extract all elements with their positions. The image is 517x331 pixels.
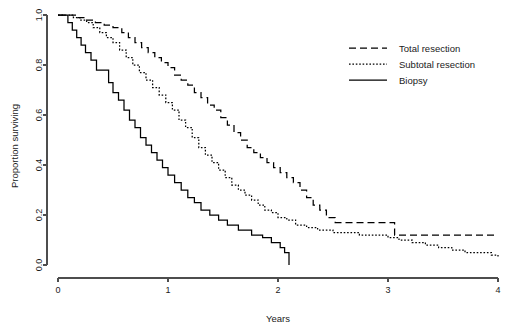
chart-legend: Total resectionSubtotal resectionBiopsy	[349, 43, 475, 86]
y-tick-label: 0.2	[34, 209, 44, 222]
kaplan-meier-plot: 0.00.20.40.60.81.0 Proportion surviving …	[0, 0, 517, 331]
x-axis-ticks: 01234	[55, 278, 500, 295]
y-axis-ticks: 0.00.20.40.60.81.0	[34, 9, 47, 272]
y-tick-label: 0.4	[34, 159, 44, 172]
y-axis-group: 0.00.20.40.60.81.0 Proportion surviving	[9, 9, 47, 272]
x-tick-label: 1	[165, 285, 170, 295]
y-tick-label: 0.0	[34, 259, 44, 272]
y-axis-title: Proportion surviving	[9, 104, 20, 188]
survival-chart-figure: 0.00.20.40.60.81.0 Proportion surviving …	[0, 0, 517, 331]
legend-label-subtotal-resection: Subtotal resection	[399, 59, 475, 70]
legend-label-biopsy: Biopsy	[399, 75, 428, 86]
y-tick-label: 1.0	[34, 9, 44, 22]
x-tick-label: 4	[495, 285, 500, 295]
x-tick-label: 0	[55, 285, 60, 295]
y-tick-label: 0.8	[34, 59, 44, 72]
x-axis-title: Years	[266, 313, 290, 324]
x-axis-group: 01234 Years	[55, 278, 500, 324]
survival-curve-biopsy	[58, 15, 289, 265]
x-tick-label: 3	[385, 285, 390, 295]
legend-label-total-resection: Total resection	[399, 43, 460, 54]
x-tick-label: 2	[275, 285, 280, 295]
y-tick-label: 0.6	[34, 109, 44, 122]
